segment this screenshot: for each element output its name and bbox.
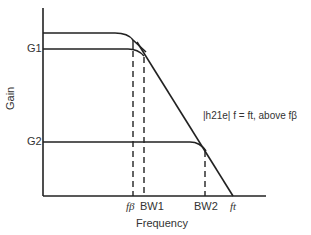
annotation: |h21e| f = ft, above fβ (203, 110, 297, 121)
tick-ft: ft (230, 200, 236, 212)
x-axis-label: Frequency (136, 217, 188, 229)
tick-bw2: BW2 (194, 200, 218, 212)
tick-fbeta: fβ (126, 200, 135, 212)
tick-g2: G2 (27, 135, 42, 147)
y-axis-label: Gain (4, 87, 16, 110)
tick-bw1: BW1 (140, 200, 164, 212)
tick-g1: G1 (27, 42, 42, 54)
curve-g2 (43, 142, 206, 151)
curve-g1 (43, 49, 144, 56)
